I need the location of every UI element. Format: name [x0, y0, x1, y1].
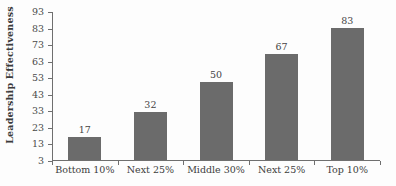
y-axis-tick-label: 93 — [4, 7, 44, 17]
y-axis-tick — [48, 144, 52, 145]
bar[interactable] — [265, 54, 298, 160]
y-axis-tick-label: 73 — [4, 40, 44, 50]
x-axis-category-label: Top 10% — [314, 164, 380, 175]
bar[interactable] — [134, 112, 167, 160]
y-axis-tick-label: 3 — [4, 156, 44, 166]
plot-area: 3132333435363738393 1732506783 — [52, 12, 380, 161]
y-axis-line — [52, 12, 53, 161]
y-axis-tick — [48, 111, 52, 112]
y-axis-tick-label: 83 — [4, 24, 44, 34]
bar[interactable] — [331, 28, 364, 160]
y-axis-tick — [48, 45, 52, 46]
y-axis-tick — [48, 62, 52, 63]
y-axis-tick-labels: 3132333435363738393 — [4, 12, 44, 161]
bar-value-label: 50 — [196, 69, 236, 80]
bar-value-label: 32 — [130, 99, 170, 110]
bar-value-label: 83 — [327, 15, 367, 26]
x-axis-category-labels: Bottom 10%Next 25%Middle 30%Next 25%Top … — [52, 164, 380, 182]
y-axis-tick — [48, 95, 52, 96]
y-axis-tick-label: 43 — [4, 90, 44, 100]
y-axis-tick-label: 23 — [4, 123, 44, 133]
x-axis-category-label: Middle 30% — [183, 164, 249, 175]
leadership-effectiveness-bar-chart: Leadership Effectiveness 313233343536373… — [0, 0, 396, 186]
y-axis-tick — [48, 78, 52, 79]
x-axis-category-label: Next 25% — [117, 164, 183, 175]
y-axis-tick — [48, 12, 52, 13]
bar[interactable] — [68, 137, 101, 160]
y-axis-tick-label: 13 — [4, 139, 44, 149]
x-axis-category-label: Next 25% — [249, 164, 315, 175]
bar[interactable] — [200, 82, 233, 160]
y-axis-tick — [48, 29, 52, 30]
bar-value-label: 17 — [65, 124, 105, 135]
x-axis-category-label: Bottom 10% — [52, 164, 118, 175]
bar-value-label: 67 — [262, 41, 302, 52]
y-axis-tick — [48, 128, 52, 129]
y-axis-tick-label: 63 — [4, 57, 44, 67]
y-axis-tick-label: 53 — [4, 73, 44, 83]
x-axis-line — [52, 160, 380, 161]
y-axis-tick-label: 33 — [4, 106, 44, 116]
